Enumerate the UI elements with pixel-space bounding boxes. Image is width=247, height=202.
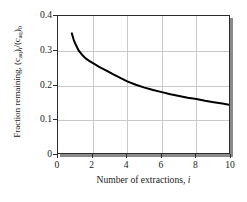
x-tick-label-text: 8 — [183, 159, 207, 171]
y-tick-mark — [53, 15, 57, 16]
y-axis-label-prefix: Fraction remaining, (c — [12, 58, 22, 138]
y-tick-label-text: 0.2 — [26, 80, 52, 90]
y-tick-label: 0.2 — [22, 80, 52, 90]
x-tick-mark — [57, 154, 58, 158]
x-tick-mark — [92, 154, 93, 158]
y-tick-label: 0.3 — [22, 45, 52, 55]
data-curve — [58, 16, 230, 154]
x-tick-label: 2 — [80, 159, 104, 171]
x-tick-label-text: 10 — [218, 159, 242, 171]
x-tick-mark — [195, 154, 196, 158]
y-tick-mark — [53, 119, 57, 120]
x-tick-label-text: 4 — [114, 159, 138, 171]
x-tick-label: 6 — [149, 159, 173, 171]
y-axis-label-mid: /(c — [12, 38, 22, 47]
y-tick-label-text: 0.1 — [26, 114, 52, 124]
x-axis-label: Number of extractions, i — [40, 174, 247, 186]
y-tick-mark — [53, 50, 57, 51]
x-tick-label-text: 0 — [45, 159, 69, 171]
x-axis-label-text: Number of extractions, — [97, 174, 186, 185]
x-tick-label-text: 2 — [80, 159, 104, 171]
y-tick-label: 0.1 — [22, 114, 52, 124]
x-axis-label-var: i — [188, 174, 191, 185]
x-tick-mark — [126, 154, 127, 158]
x-tick-label: 0 — [45, 159, 69, 171]
plot-area — [57, 15, 230, 154]
y-tick-label-text: 0.4 — [26, 10, 52, 20]
y-axis-label-sub-aq-2: aq — [16, 32, 23, 38]
y-tick-label-text: 0.3 — [26, 45, 52, 55]
chart-figure: Fraction remaining, (caq)i/(caq)0 00.10.… — [0, 0, 247, 202]
x-tick-label-text: 6 — [149, 159, 173, 171]
x-tick-mark — [230, 154, 231, 158]
x-tick-label: 8 — [183, 159, 207, 171]
y-tick-label: 0 — [22, 149, 52, 159]
y-axis-label-sub-zero: 0 — [16, 26, 23, 29]
x-tick-mark — [161, 154, 162, 158]
y-tick-label: 0.4 — [22, 10, 52, 20]
x-tick-label: 10 — [218, 159, 242, 171]
x-tick-label: 4 — [114, 159, 138, 171]
y-tick-label-text: 0 — [26, 149, 52, 159]
y-tick-mark — [53, 85, 57, 86]
